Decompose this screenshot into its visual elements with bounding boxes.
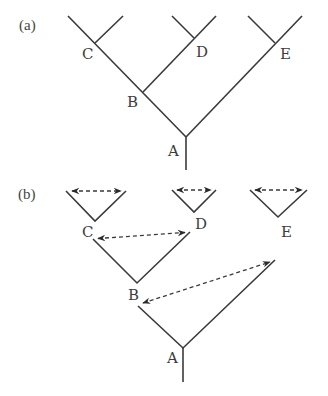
pair-d-branches bbox=[172, 190, 216, 212]
node-label-d-b: D bbox=[195, 215, 207, 233]
figure: (a) C D E B A (b) C bbox=[0, 0, 328, 396]
node-label-d: D bbox=[196, 43, 208, 61]
branch-d-left bbox=[172, 16, 194, 38]
pair-b-branches bbox=[93, 232, 190, 283]
pair-b bbox=[93, 232, 190, 283]
pair-e bbox=[250, 190, 307, 217]
pair-d bbox=[172, 190, 216, 212]
pair-c-branches bbox=[66, 191, 126, 221]
pair-a-branches bbox=[138, 260, 275, 348]
branch-a-to-c-left-tip bbox=[68, 16, 186, 137]
node-label-c-b: C bbox=[82, 223, 93, 241]
panel-b-label: (b) bbox=[18, 186, 36, 203]
node-label-a-b: A bbox=[166, 349, 178, 367]
branch-c-right bbox=[95, 16, 123, 43]
node-label-c: C bbox=[82, 45, 93, 63]
node-label-b-b: B bbox=[128, 286, 139, 304]
node-label-e-b: E bbox=[281, 223, 292, 241]
pair-a bbox=[138, 260, 275, 382]
pair-b-comparison-arrow bbox=[98, 233, 185, 239]
panel-b: (b) C D E B A bbox=[18, 186, 307, 382]
tree-a bbox=[68, 16, 302, 170]
branch-e-left bbox=[248, 16, 275, 43]
pair-e-branches bbox=[250, 190, 307, 217]
node-label-e: E bbox=[280, 45, 291, 63]
node-label-a: A bbox=[167, 142, 179, 160]
branch-a-to-e-right-tip bbox=[186, 16, 302, 137]
panel-a: (a) C D E B A bbox=[19, 16, 302, 170]
node-label-b: B bbox=[127, 93, 138, 111]
panel-a-label: (a) bbox=[19, 17, 36, 34]
pair-c bbox=[66, 191, 126, 221]
